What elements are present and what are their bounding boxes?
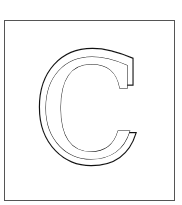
letter-c-inner-outline: C — [39, 31, 138, 188]
letter-graphic: C C — [0, 0, 182, 205]
